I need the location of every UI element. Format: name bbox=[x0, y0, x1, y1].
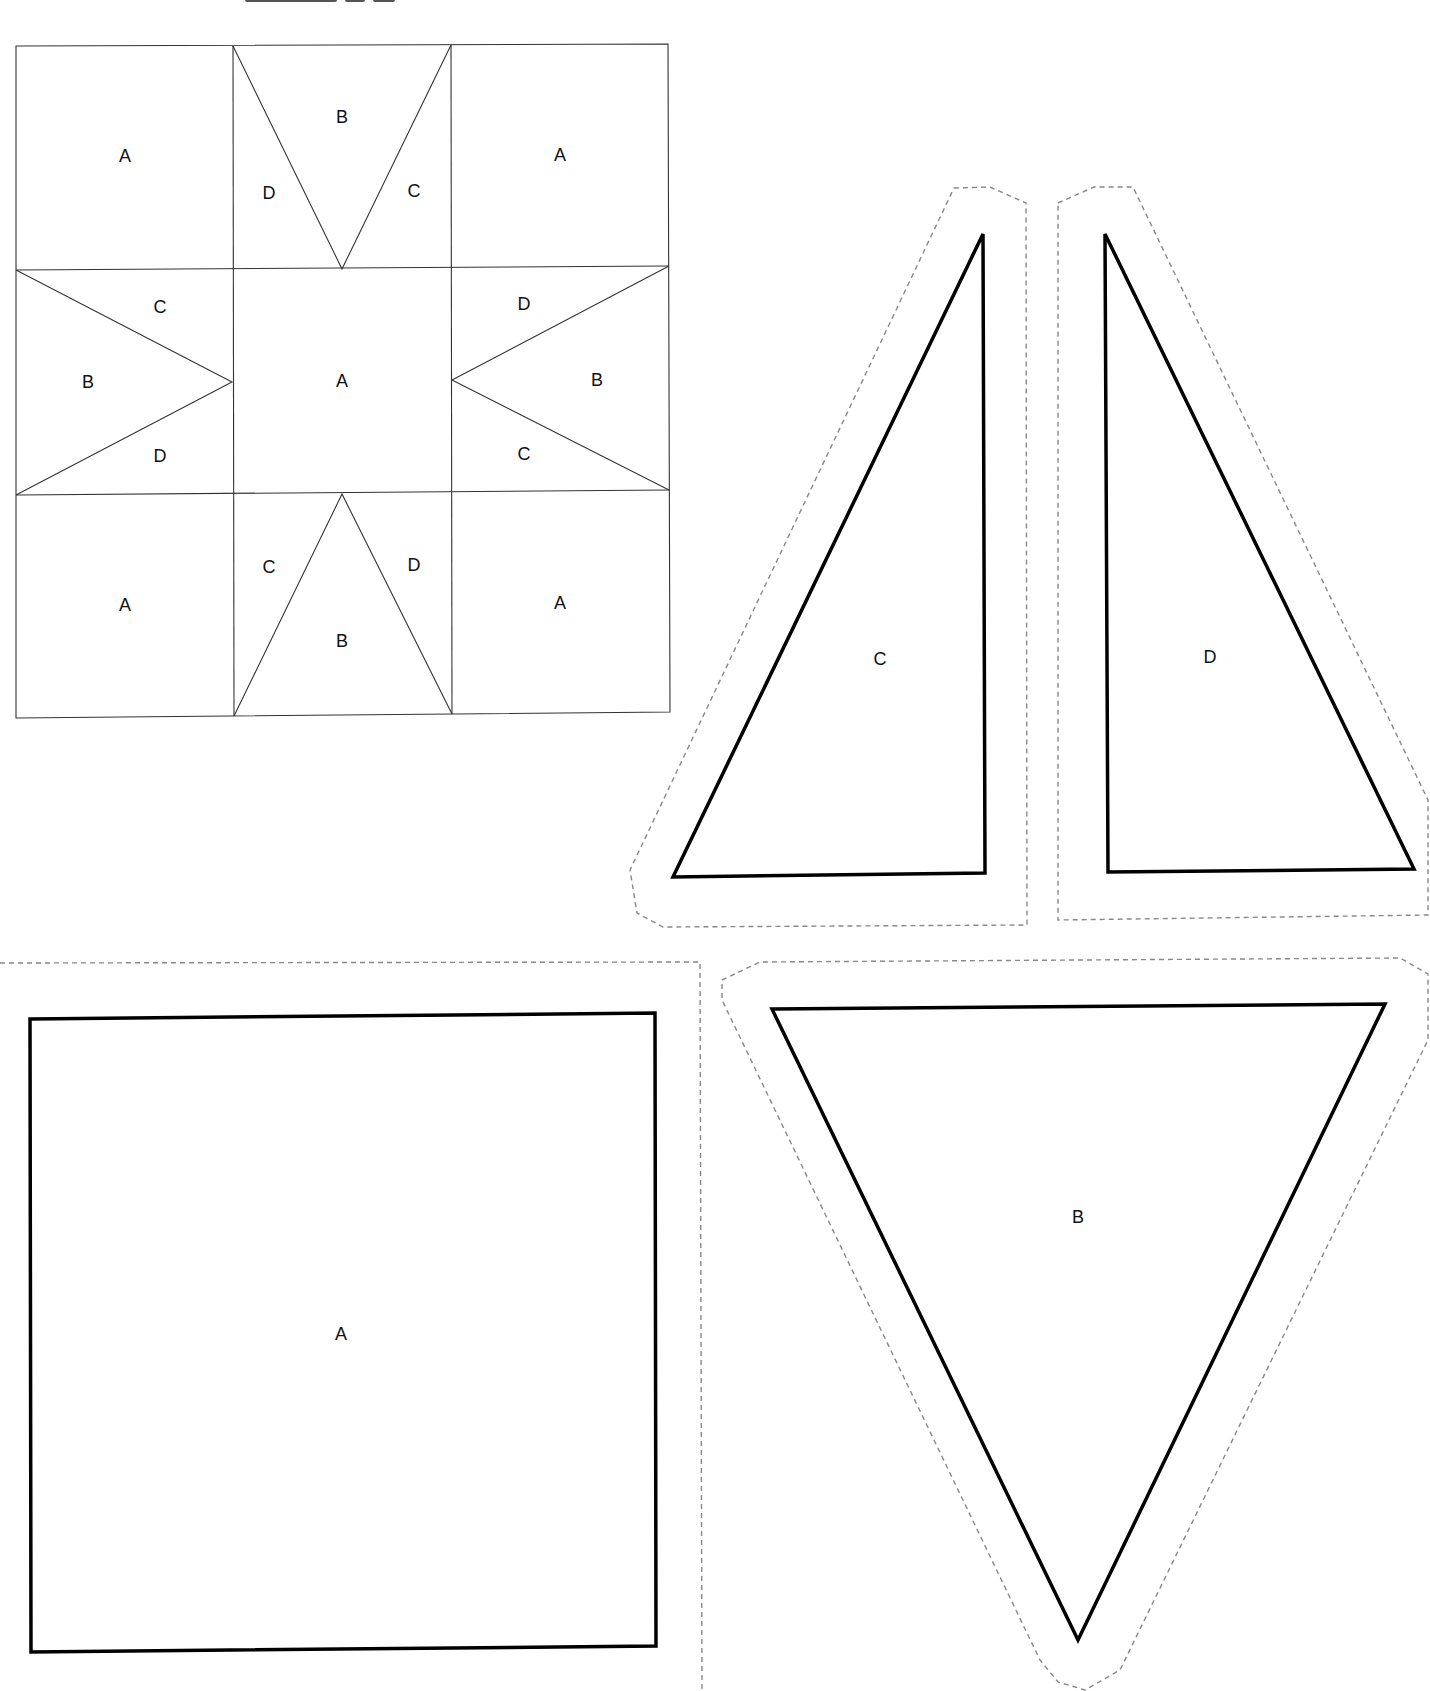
block-label: B bbox=[82, 372, 94, 392]
block-diagram: A B D C A C B D A D B C A C D B A bbox=[16, 44, 670, 718]
template-a: A bbox=[0, 962, 702, 1691]
block-label: C bbox=[518, 444, 531, 464]
seam-allowance-a bbox=[0, 962, 702, 1691]
block-label: B bbox=[591, 370, 603, 390]
cut-line-d bbox=[1105, 234, 1414, 872]
cut-line-b bbox=[772, 1004, 1385, 1640]
block-label: D bbox=[263, 183, 276, 203]
star-point-right bbox=[452, 266, 669, 490]
template-c: C bbox=[630, 187, 1027, 927]
template-label-d: D bbox=[1204, 647, 1217, 667]
star-point-top bbox=[233, 45, 451, 269]
block-label: A bbox=[554, 593, 566, 613]
block-label: C bbox=[154, 297, 167, 317]
block-label: A bbox=[336, 371, 348, 391]
template-label-c: C bbox=[874, 649, 887, 669]
block-divider bbox=[233, 46, 234, 716]
block-label: A bbox=[119, 595, 131, 615]
block-label: C bbox=[408, 181, 421, 201]
template-d: D bbox=[1058, 187, 1428, 920]
template-label-a: A bbox=[335, 1324, 347, 1344]
block-label: B bbox=[336, 631, 348, 651]
cut-line-c bbox=[673, 234, 985, 877]
template-label-b: B bbox=[1072, 1207, 1084, 1227]
pattern-sheet: A B D C A C B D A D B C A C D B A C D A bbox=[0, 0, 1430, 1691]
block-label: A bbox=[119, 146, 131, 166]
block-label: B bbox=[336, 107, 348, 127]
block-label: C bbox=[263, 557, 276, 577]
star-point-left bbox=[16, 270, 232, 495]
block-label: D bbox=[518, 294, 531, 314]
seam-allowance-d bbox=[1058, 187, 1428, 920]
template-b: B bbox=[722, 958, 1428, 1690]
block-label: A bbox=[554, 145, 566, 165]
block-label: D bbox=[154, 446, 167, 466]
star-point-bottom bbox=[234, 494, 452, 716]
seam-allowance-b bbox=[722, 958, 1428, 1690]
block-label: D bbox=[408, 555, 421, 575]
